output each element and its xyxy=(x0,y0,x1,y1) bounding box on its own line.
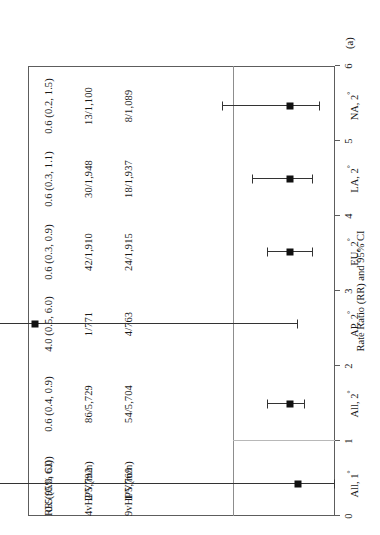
x-tick xyxy=(335,365,340,366)
row-label-text: AP, 2 xyxy=(349,314,360,337)
row-label-degree: ° xyxy=(346,471,355,474)
x-tick xyxy=(335,65,340,66)
x-axis-line xyxy=(334,66,335,516)
x-tick-label: 0 xyxy=(342,513,355,518)
table-cell-nine-v: 1/5,769 xyxy=(120,468,138,501)
row-label-degree: ° xyxy=(346,238,355,241)
ci-upper-cap xyxy=(267,400,268,409)
row-label-text: All, 1 xyxy=(349,474,360,498)
table-cell-four-v: 2/5,792 xyxy=(80,468,98,501)
table-cell-nine-v: 24/1,915 xyxy=(120,233,138,271)
x-tick-label: 4 xyxy=(342,213,355,218)
table-cell-rr: 0.6 (0.2, 1.5) xyxy=(40,78,58,134)
ci-upper-cap xyxy=(222,102,223,111)
ci-lower-cap xyxy=(312,248,313,257)
point-estimate-marker xyxy=(287,401,294,408)
table-cell-four-v: 13/1,100 xyxy=(80,87,98,125)
row-label-text: LA, 2 xyxy=(349,168,360,193)
table-cell-four-v: 86/5,729 xyxy=(80,385,98,423)
table-cell-four-v: 42/1,910 xyxy=(80,233,98,271)
row-label: All, 1° xyxy=(344,471,361,498)
table-column-nine-v: 9vHPV(m/n)1/5,76954/5,7044/76324/1,91518… xyxy=(120,0,138,535)
table-cell-rr: 0.6 (0.3, 1.1) xyxy=(40,151,58,207)
table-column-four-v: 4vHPV(m/n)2/5,79286/5,7291/77142/1,91030… xyxy=(80,0,98,535)
x-tick-label: 5 xyxy=(342,138,355,143)
row-label: LA, 2° xyxy=(344,165,361,193)
table-cell-nine-v: 18/1,937 xyxy=(120,160,138,198)
table-cell-four-v: 1/771 xyxy=(80,312,98,336)
row-label: AP, 2° xyxy=(344,311,361,337)
table-cell-nine-v: 54/5,704 xyxy=(120,385,138,423)
point-estimate-marker xyxy=(294,481,301,488)
row-label-degree: ° xyxy=(346,92,355,95)
row-label-text: EU, 2 xyxy=(349,241,360,266)
point-estimate-marker xyxy=(287,249,294,256)
ci-lower-cap xyxy=(334,480,335,489)
confidence-interval-line xyxy=(253,178,313,179)
table-cell-rr: 0.5 (0.0, 6.0) xyxy=(40,456,58,512)
table-cell-rr: 4.0 (0.5, 6.0) xyxy=(40,296,58,352)
table-cell-nine-v: 8/1,089 xyxy=(120,90,138,123)
x-tick-label: 2 xyxy=(342,363,355,368)
row-label: NA, 2° xyxy=(344,92,361,121)
table-cell-nine-v: 4/763 xyxy=(120,312,138,336)
x-tick xyxy=(335,515,340,516)
x-tick-label: 1 xyxy=(342,438,355,443)
table-cell-four-v: 30/1,948 xyxy=(80,160,98,198)
table-column-rr: RR (95% CI)0.5 (0.0, 6.0)0.6 (0.4, 0.9)4… xyxy=(40,0,58,535)
x-axis-title: Rate Ratio (RR) and 95% CI xyxy=(355,66,366,516)
x-tick xyxy=(335,440,340,441)
row-label-degree: ° xyxy=(346,311,355,314)
confidence-interval-line xyxy=(0,323,298,324)
ci-lower-cap xyxy=(297,320,298,329)
row-label-degree: ° xyxy=(346,165,355,168)
ci-lower-cap xyxy=(312,175,313,184)
rotated-figure-stage: RR (95% CI)0.5 (0.0, 6.0)0.6 (0.4, 0.9)4… xyxy=(0,0,380,535)
x-tick xyxy=(335,140,340,141)
row-label-text: All, 2 xyxy=(349,394,360,418)
x-tick xyxy=(335,290,340,291)
forest-plot-figure: RR (95% CI)0.5 (0.0, 6.0)0.6 (0.4, 0.9)4… xyxy=(0,0,380,535)
ci-lower-cap xyxy=(319,102,320,111)
row-label: EU, 2° xyxy=(344,238,361,266)
point-estimate-marker xyxy=(287,176,294,183)
plot-area: 0123456 xyxy=(233,66,335,516)
ci-upper-cap xyxy=(252,175,253,184)
table-cell-rr: 0.6 (0.3, 0.9) xyxy=(40,224,58,280)
x-tick xyxy=(335,215,340,216)
row-label-degree: ° xyxy=(346,391,355,394)
confidence-interval-line xyxy=(0,483,335,484)
ci-lower-cap xyxy=(304,400,305,409)
reference-line xyxy=(233,440,335,441)
point-estimate-marker xyxy=(287,103,294,110)
x-tick-label: 3 xyxy=(342,288,355,293)
panel-tag: (a) xyxy=(344,37,355,49)
row-label-text: NA, 2 xyxy=(349,95,360,121)
table-cell-rr: 0.6 (0.4, 0.9) xyxy=(40,376,58,432)
ci-upper-cap xyxy=(267,248,268,257)
point-estimate-marker xyxy=(32,321,39,328)
x-tick-label: 6 xyxy=(342,63,355,68)
confidence-interval-line xyxy=(223,105,321,106)
row-label: All, 2° xyxy=(344,391,361,418)
